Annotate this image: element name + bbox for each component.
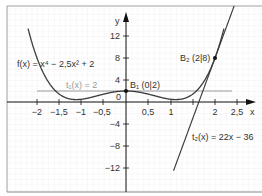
point-b1-label: B₁ (0|2) [130,80,160,90]
y-tick-label: −4 [110,119,120,129]
x-axis-label: x [250,107,255,117]
y-tick-label: 8 [115,53,120,63]
x-tick-label: −1 [76,107,86,117]
x-tick-label: 2 [212,107,217,117]
x-tick-label: 1 [168,107,173,117]
tangent-t2-label: t₂(x) = 22x − 36 [192,132,254,142]
x-tick-label: −1,5 [50,107,68,117]
x-tick-label: −2 [32,107,42,117]
chart: −2 −1,5 −1 −0,5 0,5 1 2 2,5 12 8 4 −4 −8… [0,0,262,196]
x-tick-label: −0,5 [93,107,111,117]
function-f-label: f(x) = x⁴ − 2,5x² + 2 [17,59,94,69]
y-tick-label: 4 [115,75,120,85]
y-tick-label: 12 [110,31,120,41]
y-tick-label: −12 [105,163,120,173]
x-tick-label: 2,5 [231,107,244,117]
point-b2 [213,56,217,60]
y-tick-label: −8 [110,141,120,151]
point-b2-label: B₂ (2|8) [180,53,210,63]
tangent-t1-label: t₁(x) = 2 [66,80,97,90]
point-b1 [124,89,128,93]
x-tick-label: 0,5 [142,107,155,117]
y-axis-label: y [115,16,120,26]
origin-label: 0 [116,92,121,102]
